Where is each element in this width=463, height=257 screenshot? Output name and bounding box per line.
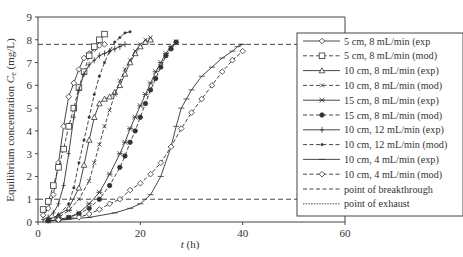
data-marker xyxy=(67,151,71,157)
data-marker xyxy=(107,183,111,187)
data-marker xyxy=(123,41,127,47)
data-marker xyxy=(93,93,95,95)
data-marker xyxy=(143,101,147,105)
data-marker xyxy=(66,94,72,100)
data-marker xyxy=(72,114,76,120)
data-marker xyxy=(164,54,168,58)
x-tick-label: 60 xyxy=(340,227,352,239)
legend-label: point of breakthrough xyxy=(344,184,433,195)
x-tick-label: 0 xyxy=(35,227,41,239)
data-marker xyxy=(97,53,101,59)
data-marker xyxy=(319,53,325,59)
data-marker xyxy=(138,115,142,119)
data-marker xyxy=(174,40,178,44)
x-ticks: 0204060 xyxy=(35,222,351,239)
data-marker xyxy=(153,76,157,80)
series-line xyxy=(47,31,131,221)
data-marker xyxy=(98,75,100,77)
data-marker xyxy=(87,206,91,210)
legend-label: 10 cm, 8 mL/min (mod) xyxy=(344,80,442,92)
data-marker xyxy=(129,31,131,33)
data-marker xyxy=(117,151,123,156)
data-marker xyxy=(103,50,107,56)
series-line xyxy=(46,40,178,223)
data-marker xyxy=(124,32,126,34)
data-marker xyxy=(51,183,57,189)
data-marker xyxy=(78,162,80,164)
data-marker xyxy=(219,69,225,75)
data-marker xyxy=(96,190,102,195)
data-marker xyxy=(169,47,173,51)
y-tick-label: 0 xyxy=(27,216,33,228)
x-tick-label: 40 xyxy=(237,227,249,239)
breakthrough-curve-chart: 0123456789 0204060 t (h) Equilibrium con… xyxy=(0,0,463,257)
data-marker xyxy=(107,172,113,177)
y-tick-label: 2 xyxy=(27,170,33,182)
legend-label: 15 cm, 8 mL/min (exp) xyxy=(344,95,439,107)
legend-label: 10 cm, 4 mL/min (mod) xyxy=(344,169,442,181)
data-marker xyxy=(91,114,97,119)
series-line xyxy=(46,36,152,222)
data-marker xyxy=(153,69,159,74)
legend-label: 10 cm, 8 mL/min (exp) xyxy=(344,65,439,77)
legend: 5 cm, 8 mL/min (exp5 cm, 8 mL/min (mod)1… xyxy=(297,33,463,216)
data-marker xyxy=(320,113,324,117)
legend-label: 10 cm, 12 mL/min (mod) xyxy=(344,139,447,151)
data-marker xyxy=(56,165,62,171)
data-marker xyxy=(81,162,87,167)
data-marker xyxy=(148,88,152,92)
data-marker xyxy=(61,146,67,152)
data-marker xyxy=(88,116,90,118)
reference-lines xyxy=(38,44,297,199)
data-marker xyxy=(91,44,97,50)
data-marker xyxy=(73,187,75,189)
data-marker xyxy=(127,126,133,131)
data-marker xyxy=(76,185,82,190)
series-line xyxy=(40,42,107,218)
data-marker xyxy=(86,53,92,59)
data-marker xyxy=(114,41,116,43)
data-marker xyxy=(97,197,101,201)
data-marker xyxy=(113,46,117,52)
y-tick-label: 9 xyxy=(27,11,33,23)
data-marker xyxy=(83,139,85,141)
data-marker xyxy=(57,214,59,216)
data-marker xyxy=(109,50,111,52)
y-ticks: 0123456789 xyxy=(27,11,39,228)
y-axis-title: Equilibrium concentration Ce (mg/L) xyxy=(4,38,18,202)
data-series xyxy=(40,31,245,224)
data-marker xyxy=(119,36,121,38)
data-marker xyxy=(66,124,72,130)
y-tick-label: 4 xyxy=(27,125,33,137)
data-marker xyxy=(62,183,66,189)
data-marker xyxy=(132,115,138,120)
data-marker xyxy=(97,37,103,43)
data-marker xyxy=(240,48,246,54)
data-marker xyxy=(137,103,143,108)
x-tick-label: 20 xyxy=(135,227,147,239)
data-marker xyxy=(92,57,96,63)
data-marker xyxy=(97,207,103,213)
data-marker xyxy=(123,154,127,158)
legend-label: point of exhaust xyxy=(344,198,410,209)
data-marker xyxy=(321,144,323,146)
data-marker xyxy=(118,165,122,169)
data-marker xyxy=(128,140,132,144)
data-marker xyxy=(122,140,128,145)
data-marker xyxy=(102,96,108,101)
y-tick-label: 6 xyxy=(27,79,33,91)
data-marker xyxy=(127,187,133,193)
y-tick-label: 7 xyxy=(27,57,33,69)
data-marker xyxy=(159,65,163,69)
y-tick-label: 8 xyxy=(27,34,33,46)
data-marker xyxy=(158,60,164,65)
data-marker xyxy=(86,201,92,206)
series-line xyxy=(40,31,107,212)
data-marker xyxy=(138,180,144,186)
legend-label: 10 cm, 12 mL/min (exp) xyxy=(344,124,444,136)
data-marker xyxy=(102,31,108,37)
data-marker xyxy=(86,137,92,142)
data-marker xyxy=(45,199,51,205)
data-marker xyxy=(40,207,46,213)
y-tick-label: 3 xyxy=(27,148,33,160)
